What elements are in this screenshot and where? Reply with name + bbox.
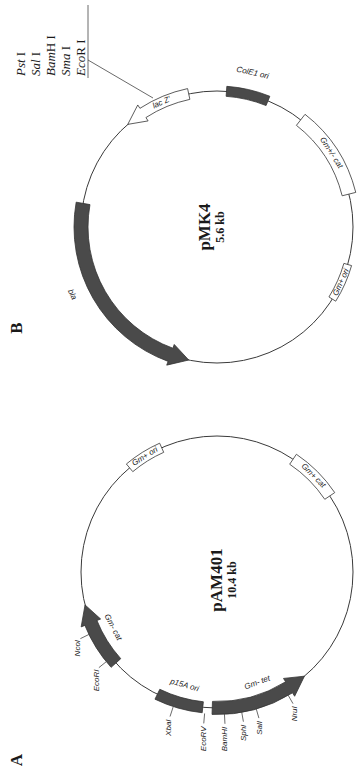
site-label-ncoi: NcoI bbox=[73, 639, 82, 656]
mcs-site-bamh-i: BamH I bbox=[43, 35, 58, 76]
site-tick-ecorv bbox=[204, 713, 205, 723]
site-label-ecori: EcoRI bbox=[92, 669, 101, 692]
plasmid-size-pmk4: 5.6 kb bbox=[213, 211, 227, 243]
site-label-sali: SalI bbox=[255, 720, 264, 735]
site-tick-nrui bbox=[288, 695, 293, 704]
plasmid-map-figure: B blalac Z'ColE1 oriGm+/- catGm+ ori Eco… bbox=[0, 0, 364, 773]
pmk4-feature-label-cole1-ori: ColE1 ori bbox=[236, 65, 270, 81]
site-tick-bamhi bbox=[224, 714, 225, 724]
site-tick-ecori bbox=[99, 661, 107, 667]
mcs-site-list: EcoR ISma IBamH ISal IPst I bbox=[13, 35, 88, 77]
mcs-pointer-line bbox=[88, 60, 153, 98]
mcs-site-ecor-i: EcoR I bbox=[73, 40, 88, 77]
pam401-feature-label-gm-cat: Gm+ cat bbox=[299, 462, 327, 490]
mcs-callout: EcoR ISma IBamH ISal IPst I bbox=[13, 5, 153, 98]
plasmid-size-pam401: 10.4 kb bbox=[225, 561, 239, 599]
pmk4-feature-label-bla: bla bbox=[66, 288, 79, 302]
pam401-feature-label-p15a-ori: p15A ori bbox=[168, 676, 200, 693]
panel-letter-b: B bbox=[7, 322, 26, 333]
site-tick-xbai bbox=[170, 707, 173, 717]
site-label-bamhi: BamHI bbox=[220, 726, 229, 751]
pam401-feature-label-gm-tet: Gm- tet bbox=[243, 673, 272, 691]
panel-letter-a: A bbox=[7, 753, 26, 766]
site-tick-sali bbox=[256, 708, 259, 718]
site-label-xbai: XbaI bbox=[164, 719, 173, 737]
mcs-site-sal-i: Sal I bbox=[28, 52, 43, 76]
site-label-ecorv: EcoRV bbox=[199, 726, 208, 751]
site-tick-sphi bbox=[242, 712, 244, 722]
mcs-site-pst-i: Pst I bbox=[13, 52, 28, 77]
mcs-site-sma-i: Sma I bbox=[58, 46, 73, 76]
pmk4-feature-label-gm-ori: Gm+ ori bbox=[331, 267, 351, 297]
site-label-sphi: SphI bbox=[239, 724, 248, 741]
pmk4-feature-gm-cat bbox=[296, 114, 355, 195]
panel-b: B blalac Z'ColE1 oriGm+/- catGm+ ori Eco… bbox=[7, 5, 356, 365]
site-tick-ncoi bbox=[80, 634, 89, 638]
plasmid-name-pmk4: pMK4 bbox=[195, 203, 214, 251]
pmk4-feature-cole1-ori bbox=[226, 86, 270, 105]
plasmid-name-pam401: pAM401 bbox=[207, 548, 226, 611]
pmk4-feature-bla bbox=[74, 202, 189, 365]
site-label-nrui: NruI bbox=[290, 705, 299, 721]
panel-a: A Gm- tetp15A oriGm- catGm+ oriGm+ cat X… bbox=[7, 436, 353, 766]
